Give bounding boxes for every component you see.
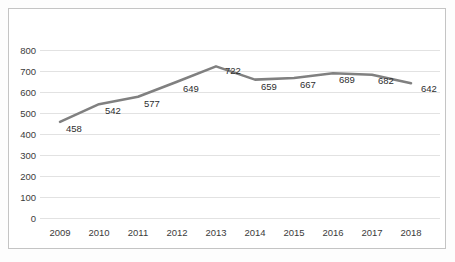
data-label-2012: 649 [183, 84, 199, 94]
line-chart-figure: 800 700 600 500 400 300 200 100 0 2009 2… [0, 0, 455, 262]
data-label-2015: 667 [300, 80, 316, 90]
data-label-2017: 682 [378, 76, 394, 86]
data-label-2010: 542 [105, 106, 121, 116]
data-label-2016: 689 [339, 75, 355, 85]
data-label-2011: 577 [144, 99, 160, 109]
data-label-2013: 722 [225, 66, 241, 76]
data-label-2018: 642 [421, 84, 437, 94]
data-label-2014: 659 [261, 82, 277, 92]
data-label-2009: 458 [66, 124, 82, 134]
